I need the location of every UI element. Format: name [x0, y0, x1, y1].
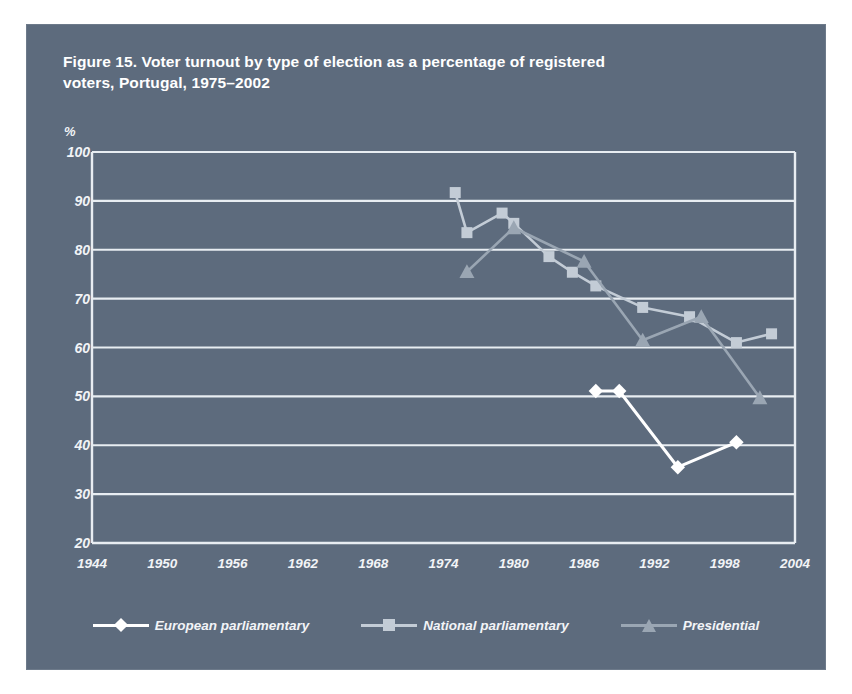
legend-swatch-0: [93, 618, 149, 632]
x-tick-1968: 1968: [338, 556, 408, 571]
legend-label-2: Presidential: [683, 618, 760, 633]
x-tick-1986: 1986: [549, 556, 619, 571]
x-tick-1998: 1998: [690, 556, 760, 571]
datapoint-1-0: [450, 187, 461, 198]
square-marker: [383, 619, 395, 631]
datapoint-1-2: [497, 208, 508, 219]
x-tick-1944: 1944: [57, 556, 127, 571]
diamond-marker: [114, 618, 128, 632]
x-axis-tick-labels: 1944195019561962196819741980198619921998…: [26, 556, 826, 580]
datapoint-1-7: [637, 302, 648, 313]
series-line-2: [467, 228, 760, 398]
legend-label-1: National parliamentary: [423, 618, 569, 633]
x-tick-2004: 2004: [760, 556, 830, 571]
series-line-0: [596, 391, 737, 467]
datapoint-2-2: [577, 254, 592, 268]
x-tick-1974: 1974: [409, 556, 479, 571]
figure-root: Figure 15. Voter turnout by type of elec…: [0, 0, 852, 694]
legend-label-0: European parliamentary: [155, 618, 310, 633]
x-tick-1980: 1980: [479, 556, 549, 571]
datapoint-0-3: [729, 435, 743, 449]
x-tick-1992: 1992: [619, 556, 689, 571]
legend-swatch-1: [361, 618, 417, 632]
datapoint-1-4: [543, 251, 554, 262]
chart-legend: European parliamentaryNational parliamen…: [26, 610, 826, 640]
legend-item-2[interactable]: Presidential: [621, 618, 760, 633]
series-presidential: [459, 220, 767, 404]
x-tick-1962: 1962: [268, 556, 338, 571]
datapoint-1-10: [766, 328, 777, 339]
series-national-parliamentary: [450, 187, 777, 348]
legend-swatch-2: [621, 618, 677, 632]
chart-panel: Figure 15. Voter turnout by type of elec…: [26, 24, 826, 670]
x-tick-1950: 1950: [127, 556, 197, 571]
datapoint-1-9: [731, 337, 742, 348]
legend-item-1[interactable]: National parliamentary: [361, 618, 569, 633]
legend-item-0[interactable]: European parliamentary: [93, 618, 310, 633]
x-tick-1956: 1956: [198, 556, 268, 571]
datapoint-1-1: [461, 227, 472, 238]
datapoint-1-5: [567, 267, 578, 278]
datapoint-2-4: [694, 309, 709, 323]
triangle-marker: [642, 619, 656, 632]
